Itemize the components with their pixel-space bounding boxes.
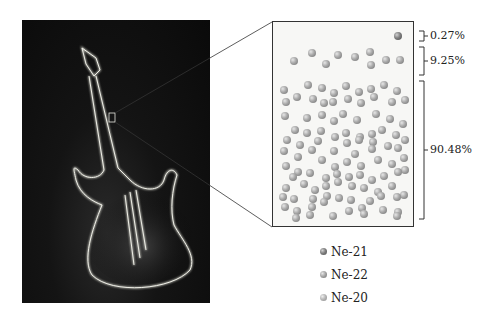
legend-item-ne20: Ne-20 bbox=[320, 286, 368, 309]
ne21-atom-icon bbox=[320, 248, 327, 255]
isotope-legend: Ne-21 Ne-22 Ne-20 bbox=[320, 240, 368, 309]
ne22-percentage: 9.25% bbox=[430, 54, 465, 67]
legend-label: Ne-20 bbox=[331, 291, 368, 305]
legend-label: Ne-22 bbox=[331, 268, 368, 282]
ne20-atom-icon bbox=[320, 294, 327, 301]
legend-item-ne22: Ne-22 bbox=[320, 263, 368, 286]
ne21-percentage: 0.27% bbox=[430, 29, 465, 42]
percentage-brackets bbox=[0, 0, 498, 325]
legend-label: Ne-21 bbox=[331, 245, 368, 259]
legend-item-ne21: Ne-21 bbox=[320, 240, 368, 263]
ne22-atom-icon bbox=[320, 271, 327, 278]
ne20-percentage: 90.48% bbox=[430, 143, 472, 156]
